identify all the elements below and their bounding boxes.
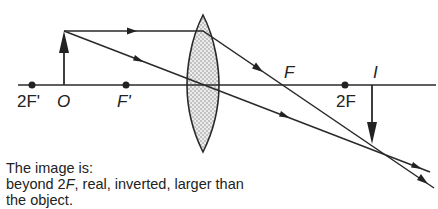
- ray-arrowhead-icon: [133, 55, 144, 62]
- caption-line-3: the object.: [6, 192, 244, 208]
- caption-line-2: beyond 2F, real, inverted, larger than: [6, 176, 244, 192]
- ray-arrowhead-icon: [411, 162, 422, 169]
- convex-lens: [187, 15, 219, 152]
- caption-line-1: The image is:: [6, 160, 244, 176]
- label-f-prime: F': [117, 93, 131, 110]
- label-f: F: [284, 64, 294, 81]
- object-arrow: [59, 31, 69, 85]
- label-object: O: [57, 93, 70, 110]
- ray-arrowhead-icon: [417, 174, 428, 184]
- caption-focal-symbol: F: [66, 176, 75, 192]
- two-f-point: [342, 82, 349, 89]
- image-arrow: [367, 85, 377, 144]
- caption: The image is: beyond 2F, real, inverted,…: [6, 160, 244, 208]
- f-prime-point: [123, 82, 130, 89]
- caption-text: beyond 2: [6, 176, 66, 192]
- ray-arrowhead-icon: [127, 28, 137, 35]
- caption-text: , real, inverted, larger than: [75, 176, 244, 192]
- two-f-prime-point: [29, 82, 36, 89]
- label-2f-prime: 2F': [17, 93, 40, 110]
- ray-arrowhead-icon: [279, 111, 290, 118]
- label-image: I: [373, 64, 378, 81]
- ray-arrowhead-icon: [252, 63, 263, 73]
- label-2f: 2F: [336, 93, 356, 110]
